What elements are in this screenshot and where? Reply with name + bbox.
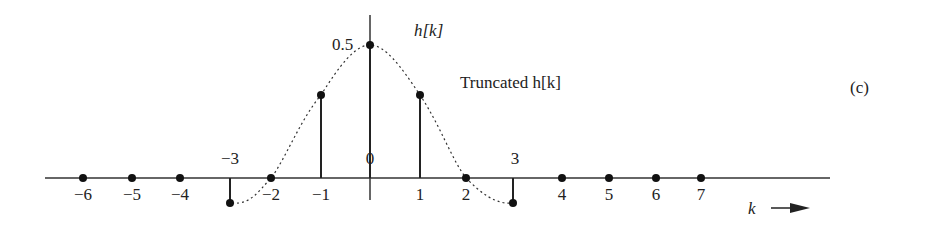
svg-text:5: 5 — [605, 185, 614, 204]
svg-text:1: 1 — [416, 185, 425, 204]
svg-text:3: 3 — [511, 149, 520, 168]
peak-label: 0.5 — [332, 35, 353, 54]
svg-text:−5: −5 — [123, 185, 141, 204]
svg-text:−1: −1 — [312, 185, 330, 204]
stem-plot: −6 −5 −4 −3 −2 −1 0 1 2 3 4 5 6 7 0.5 h[… — [0, 0, 938, 227]
sample-points — [79, 41, 705, 207]
svg-text:−4: −4 — [171, 185, 190, 204]
svg-text:−2: −2 — [262, 185, 280, 204]
arrow-right-icon — [771, 203, 810, 213]
panel-label: (c) — [850, 78, 869, 97]
svg-text:4: 4 — [558, 185, 567, 204]
curve-label: h[k] — [414, 21, 443, 40]
svg-text:−6: −6 — [74, 185, 92, 204]
k-axis-label: k — [748, 199, 756, 218]
svg-text:0: 0 — [366, 149, 375, 168]
svg-text:6: 6 — [652, 185, 661, 204]
svg-text:−3: −3 — [221, 149, 239, 168]
svg-text:7: 7 — [697, 185, 706, 204]
svg-text:2: 2 — [462, 185, 471, 204]
truncated-label: Truncated h[k] — [460, 73, 561, 92]
